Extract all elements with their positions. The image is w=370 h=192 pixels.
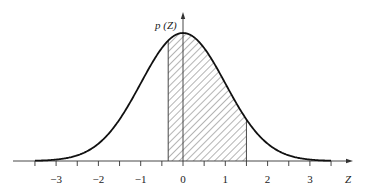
x-axis-label: Z <box>345 173 352 185</box>
axes <box>13 12 353 163</box>
x-tick-label: −3 <box>50 173 62 185</box>
x-tick-label: 0 <box>180 173 186 185</box>
x-tick-label: 3 <box>307 173 313 185</box>
x-tick-label: −2 <box>93 173 105 185</box>
x-tick-label: −1 <box>135 173 147 185</box>
y-axis-label: p (Z) <box>154 19 177 32</box>
x-tick-label: 2 <box>265 173 271 185</box>
x-ticks: −3−2−10123 <box>35 161 331 185</box>
x-tick-label: 1 <box>223 173 229 185</box>
normal-distribution-chart: −3−2−10123 Z p (Z) <box>0 0 370 192</box>
